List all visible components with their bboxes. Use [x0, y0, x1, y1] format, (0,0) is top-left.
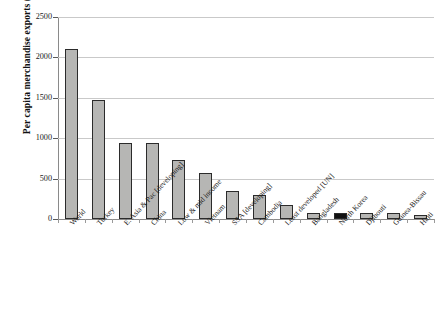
x-axis-labels: WorldTurkeyE. Asia & Pac [developing]Chi… — [58, 221, 434, 293]
bar — [65, 49, 78, 219]
bar-item — [58, 17, 85, 219]
y-axis-tick-label: 1500 — [20, 93, 52, 102]
bar-item — [273, 17, 300, 219]
bar — [119, 143, 132, 219]
chart-figure: Per capita merchandise exports ($) World… — [0, 0, 446, 310]
bar — [146, 143, 159, 219]
y-axis-tick-label: 500 — [20, 174, 52, 183]
bar-item — [85, 17, 112, 219]
bar-series — [58, 17, 434, 219]
bar-item — [380, 17, 407, 219]
x-axis-tick — [434, 219, 435, 223]
bar-item — [219, 17, 246, 219]
y-axis-tick-label: 2000 — [20, 52, 52, 61]
bar-item — [327, 17, 354, 219]
bar-item — [165, 17, 192, 219]
y-axis-title: Per capita merchandise exports ($) — [22, 0, 38, 147]
y-axis-tick-label: 1000 — [20, 133, 52, 142]
bar-item — [353, 17, 380, 219]
plot-area — [58, 17, 434, 219]
bar-item — [112, 17, 139, 219]
figure-caption — [0, 296, 446, 308]
y-axis-tick-label: 0 — [20, 214, 52, 223]
bar — [92, 100, 105, 219]
y-axis-tick-label: 2500 — [20, 12, 52, 21]
